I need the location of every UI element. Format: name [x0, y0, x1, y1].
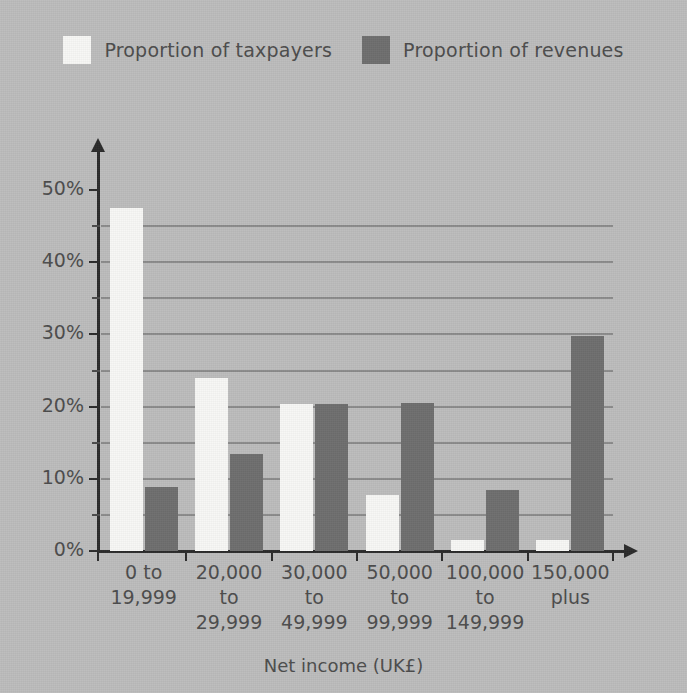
x-axis-tick — [185, 551, 187, 561]
y-axis-minor-tick — [92, 370, 100, 372]
x-axis-category-label: 50,000 to 99,999 — [357, 560, 442, 635]
legend-entry-taxpayers: Proportion of taxpayers — [63, 36, 332, 64]
bar-revenues — [145, 487, 178, 551]
bar-revenues — [401, 403, 434, 551]
bar-taxpayers — [451, 540, 484, 551]
x-axis-category-label: 100,000 to 149,999 — [442, 560, 527, 635]
y-axis-tick — [89, 189, 100, 191]
y-axis-tick — [89, 261, 100, 263]
x-axis-tick — [527, 551, 529, 561]
y-axis-minor-tick — [92, 297, 100, 299]
x-axis-category-label: 20,000 to 29,999 — [186, 560, 271, 635]
legend-label-taxpayers: Proportion of taxpayers — [104, 39, 332, 61]
legend-swatch-revenues — [362, 36, 390, 64]
x-axis-tick — [441, 551, 443, 561]
legend-swatch-taxpayers — [63, 36, 91, 64]
bar-revenues — [315, 404, 348, 551]
bar-revenues — [571, 336, 604, 551]
y-axis-minor-tick — [92, 225, 100, 227]
x-axis-tick — [612, 551, 614, 561]
bar-taxpayers — [110, 208, 143, 551]
x-axis-category-label: 0 to 19,999 — [101, 560, 186, 610]
x-axis-category-labels: 0 to 19,99920,000 to 29,99930,000 to 49,… — [0, 560, 687, 650]
x-axis-tick — [356, 551, 358, 561]
x-axis-tick-origin — [97, 551, 99, 561]
y-axis-tick — [89, 333, 100, 335]
x-axis-category-label: 150,000 plus — [528, 560, 613, 610]
legend-entry-revenues: Proportion of revenues — [362, 36, 624, 64]
chart-legend: Proportion of taxpayers Proportion of re… — [0, 30, 687, 70]
bar-revenues — [486, 490, 519, 551]
bar-revenues — [230, 454, 263, 551]
y-axis-tick — [89, 406, 100, 408]
y-axis-minor-tick — [92, 442, 100, 444]
y-axis-tick — [89, 478, 100, 480]
x-axis-category-label: 30,000 to 49,999 — [272, 560, 357, 635]
legend-label-revenues: Proportion of revenues — [403, 39, 624, 61]
bar-taxpayers — [536, 540, 569, 551]
y-axis-minor-tick — [92, 514, 100, 516]
bar-taxpayers — [195, 378, 228, 551]
bar-taxpayers — [280, 404, 313, 551]
chart-plot-area: 0%10%20%30%40%50% 0 to 19,99920,000 to 2… — [0, 0, 687, 693]
bar-taxpayers — [366, 495, 399, 551]
x-axis-tick — [271, 551, 273, 561]
x-axis-title: Net income (UK£) — [0, 655, 687, 676]
